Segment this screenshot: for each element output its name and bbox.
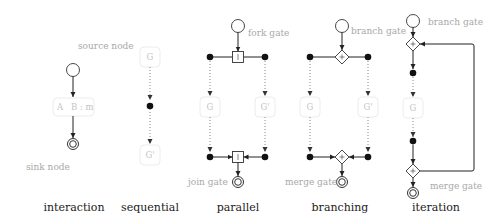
- source-node-note: source node: [78, 41, 134, 51]
- graph-label-g-prime: G': [145, 150, 154, 160]
- caption-parallel: parallel: [217, 201, 260, 214]
- branch-gate-note: branch gate: [428, 17, 483, 27]
- interaction-panel: source node A B : m sink node: [26, 41, 134, 172]
- control-flow-diagram: source node A B : m sink node G G' fork …: [0, 0, 497, 224]
- graph-label-g: G: [147, 52, 154, 62]
- parallel-panel: fork gate G G' join gate: [187, 20, 289, 188]
- source-node-icon: [67, 64, 80, 77]
- token-dot-icon: [262, 54, 269, 61]
- sink-node-inner-icon: [70, 141, 77, 148]
- sequential-panel: G G': [140, 47, 160, 165]
- captions: interaction sequential parallel branchin…: [43, 201, 460, 214]
- token-dot-icon: [207, 54, 214, 61]
- interaction-label-b: B : m: [71, 102, 94, 112]
- token-dot-icon: [147, 103, 154, 110]
- source-node-icon: [407, 15, 420, 28]
- graph-label-g: G: [307, 102, 314, 112]
- fork-gate-note: fork gate: [248, 28, 289, 38]
- token-dot-icon: [207, 154, 214, 161]
- merge-gate-note: merge gate: [285, 177, 337, 187]
- caption-iteration: iteration: [412, 201, 460, 214]
- branching-panel: branch gate G G' merge gate: [285, 20, 406, 188]
- interaction-label-a: A: [56, 102, 64, 112]
- token-dot-icon: [410, 138, 417, 145]
- graph-label-g-prime: G': [260, 102, 269, 112]
- token-dot-icon: [262, 154, 269, 161]
- graph-label-g: G: [410, 103, 417, 113]
- graph-label-g: G: [207, 102, 214, 112]
- token-dot-icon: [410, 70, 417, 77]
- merge-gate-note: merge gate: [430, 181, 482, 191]
- caption-interaction: interaction: [43, 201, 104, 214]
- branch-gate-note: branch gate: [351, 26, 406, 36]
- sink-node-inner-icon: [339, 179, 346, 186]
- sink-node-inner-icon: [235, 179, 242, 186]
- graph-label-g-prime: G': [363, 102, 372, 112]
- source-node-icon: [336, 20, 349, 33]
- caption-branching: branching: [312, 201, 369, 214]
- token-dot-icon: [307, 54, 314, 61]
- source-node-icon: [232, 20, 245, 33]
- sink-node-inner-icon: [410, 190, 417, 197]
- join-gate-note: join gate: [187, 177, 228, 187]
- loop-back-edge: [420, 44, 474, 171]
- token-dot-icon: [365, 54, 372, 61]
- iteration-panel: branch gate G merge gate: [403, 15, 483, 199]
- caption-sequential: sequential: [121, 201, 179, 214]
- token-dot-icon: [307, 154, 314, 161]
- sink-node-note: sink node: [26, 162, 70, 172]
- token-dot-icon: [365, 154, 372, 161]
